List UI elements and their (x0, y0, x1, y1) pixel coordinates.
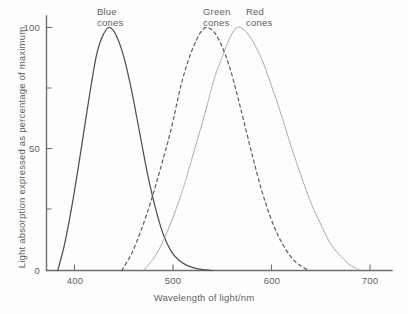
curve-label-green-cones: Green cones (203, 6, 230, 28)
x-tick-label-400: 400 (54, 275, 96, 286)
curve-green-cones (122, 27, 309, 270)
curve-group (58, 27, 360, 270)
curve-label-green-line1: Green (203, 6, 230, 17)
cone-absorption-chart: 100 50 0 400 500 600 700 Wavelength of l… (0, 0, 408, 314)
curve-label-red-line2: cones (246, 17, 272, 28)
curve-label-red-line1: Red (246, 6, 272, 17)
chart-plot-area (0, 0, 408, 314)
curve-label-red-cones: Red cones (246, 6, 272, 28)
x-tick-label-600: 600 (251, 275, 293, 286)
y-axis (47, 16, 53, 271)
curve-blue-cones (58, 27, 213, 270)
curve-label-blue-line1: Blue (97, 6, 123, 17)
curve-label-green-line2: cones (203, 17, 230, 28)
x-tick-label-700: 700 (349, 275, 391, 286)
curve-red-cones (143, 27, 360, 270)
x-axis (47, 265, 393, 271)
x-tick-label-500: 500 (152, 275, 194, 286)
y-axis-title: Light absorption expressed as percentage… (16, 23, 27, 273)
x-axis-title: Wavelength of light/nm (0, 292, 408, 303)
curve-label-blue-line2: cones (97, 17, 123, 28)
curve-label-blue-cones: Blue cones (97, 6, 123, 28)
